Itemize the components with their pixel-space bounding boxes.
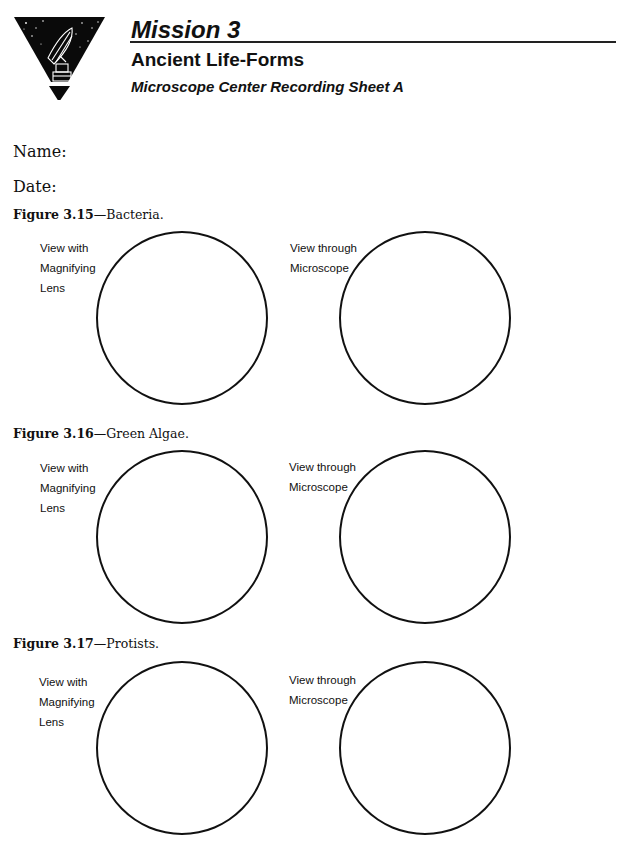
header-rule xyxy=(130,41,616,43)
magnifying-lens-drawing-area[interactable] xyxy=(96,231,268,405)
label-line: Microscope xyxy=(289,690,356,710)
label-line: View with xyxy=(39,672,95,692)
sheet-title: Microscope Center Recording Sheet A xyxy=(131,78,404,95)
label-line: Lens xyxy=(39,712,95,732)
radio-telescope-logo-icon xyxy=(12,14,107,100)
label-line: View through xyxy=(289,457,356,477)
figure-caption-protists: Figure 3.17—Protists. xyxy=(13,636,159,651)
label-line: Lens xyxy=(40,278,96,298)
label-line: Microscope xyxy=(290,258,357,278)
figure-title: —Protists. xyxy=(94,636,159,651)
label-line: Magnifying xyxy=(39,692,95,712)
figure-caption-bacteria: Figure 3.15—Bacteria. xyxy=(13,207,164,222)
figure-number: Figure 3.16 xyxy=(13,426,94,441)
microscope-drawing-area[interactable] xyxy=(339,661,511,835)
label-line: View through xyxy=(289,670,356,690)
figure-number: Figure 3.15 xyxy=(13,207,94,222)
microscope-drawing-area[interactable] xyxy=(339,450,511,624)
name-label: Name: xyxy=(13,142,67,161)
label-line: View with xyxy=(40,238,96,258)
left-view-label: View with Magnifying Lens xyxy=(39,672,95,732)
left-view-label: View with Magnifying Lens xyxy=(40,238,96,298)
figure-caption-green-algae: Figure 3.16—Green Algae. xyxy=(13,426,189,441)
right-view-label: View through Microscope xyxy=(290,238,357,278)
figure-title: —Green Algae. xyxy=(94,426,189,441)
label-line: Microscope xyxy=(289,477,356,497)
label-line: Magnifying xyxy=(40,258,96,278)
label-line: View through xyxy=(290,238,357,258)
section-subtitle: Ancient Life-Forms xyxy=(131,49,304,71)
date-label: Date: xyxy=(13,177,57,196)
mission-title: Mission 3 xyxy=(131,16,240,44)
magnifying-lens-drawing-area[interactable] xyxy=(96,661,268,835)
right-view-label: View through Microscope xyxy=(289,670,356,710)
right-view-label: View through Microscope xyxy=(289,457,356,497)
figure-number: Figure 3.17 xyxy=(13,636,94,651)
figure-title: —Bacteria. xyxy=(94,207,164,222)
magnifying-lens-drawing-area[interactable] xyxy=(96,450,268,624)
label-line: Magnifying xyxy=(40,478,96,498)
left-view-label: View with Magnifying Lens xyxy=(40,458,96,518)
label-line: Lens xyxy=(40,498,96,518)
microscope-drawing-area[interactable] xyxy=(339,231,511,405)
label-line: View with xyxy=(40,458,96,478)
